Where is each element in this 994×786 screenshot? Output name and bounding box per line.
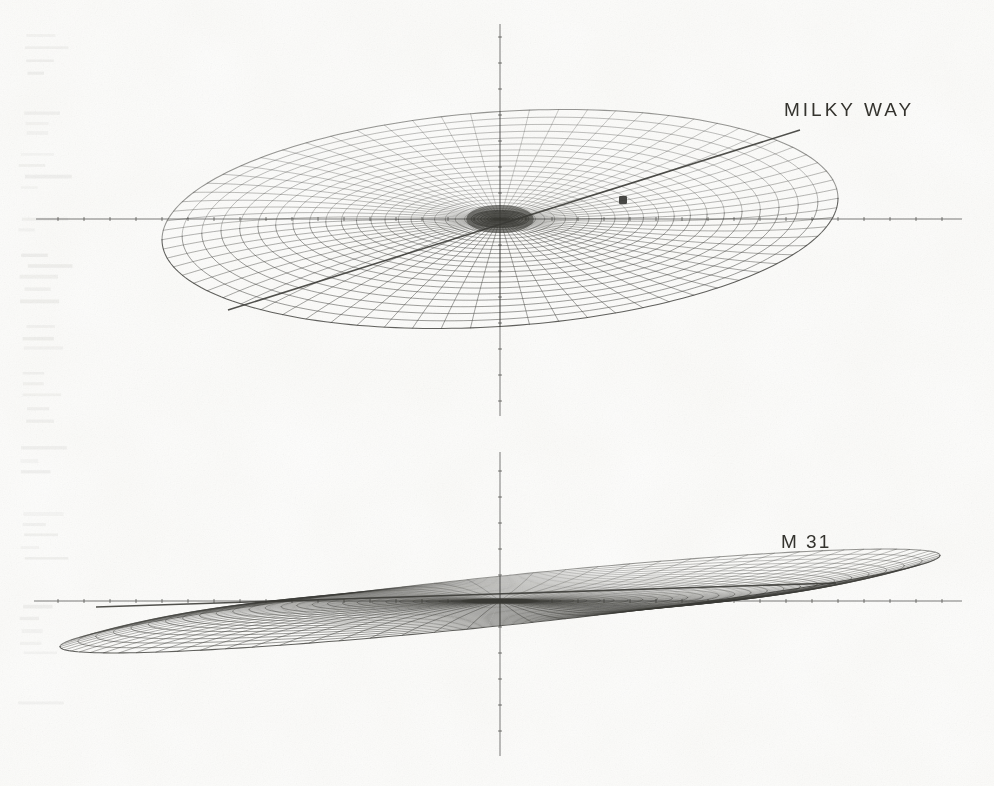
central-bulge	[461, 598, 539, 604]
bulge-core	[461, 598, 539, 604]
galaxy-figure: MILKY WAY M 31	[0, 0, 994, 786]
milky-way-label: MILKY WAY	[784, 99, 914, 121]
m31-label: M 31	[781, 531, 831, 553]
